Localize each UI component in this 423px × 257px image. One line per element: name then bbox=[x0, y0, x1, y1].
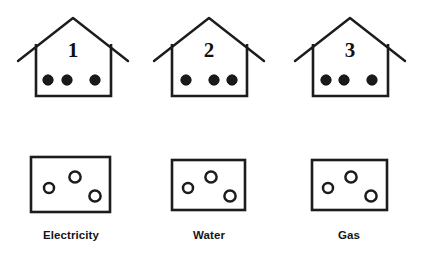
terminal-dot bbox=[181, 75, 191, 85]
terminal-dot bbox=[367, 75, 377, 85]
utility-circle bbox=[345, 171, 356, 182]
terminal-dot bbox=[62, 75, 72, 85]
terminal-dot bbox=[209, 75, 219, 85]
utility-circle bbox=[365, 190, 376, 201]
diagram-canvas: 1 2 3 Electricity bbox=[0, 0, 423, 257]
three-utilities-diagram: 1 2 3 Electricity bbox=[0, 0, 423, 257]
utility-circle bbox=[323, 183, 333, 193]
utility-electricity-label: Electricity bbox=[43, 229, 100, 241]
utility-circle bbox=[205, 171, 216, 182]
terminal-dot bbox=[227, 75, 237, 85]
house-3-number: 3 bbox=[345, 38, 356, 62]
utility-circle bbox=[183, 183, 193, 193]
terminal-dot bbox=[90, 75, 100, 85]
utility-circle bbox=[44, 183, 54, 193]
utility-circle bbox=[69, 171, 80, 182]
terminal-dot bbox=[339, 75, 349, 85]
terminal-dot bbox=[43, 75, 53, 85]
utility-water-label: Water bbox=[193, 229, 225, 241]
house-2-number: 2 bbox=[204, 38, 215, 62]
utility-circle bbox=[89, 190, 100, 201]
utility-gas-label: Gas bbox=[338, 229, 360, 241]
house-1-number: 1 bbox=[68, 38, 79, 62]
utility-circle bbox=[224, 190, 235, 201]
terminal-dot bbox=[321, 75, 331, 85]
